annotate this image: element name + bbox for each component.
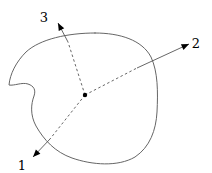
axis-3-group: 3 <box>40 10 85 96</box>
figure-canvas: 1 2 3 <box>0 0 212 173</box>
blob-outline <box>9 33 157 164</box>
axis-1-dashed-segment <box>50 95 85 139</box>
axis-3-dashed-segment <box>68 42 85 95</box>
axis-3-label: 3 <box>40 10 48 25</box>
axis-1-group: 1 <box>18 95 85 173</box>
axis-2-label: 2 <box>192 36 200 51</box>
axis-2-solid-segment <box>137 44 189 68</box>
axis-2-dashed-segment <box>85 68 137 95</box>
diagram-svg: 1 2 3 <box>0 0 212 173</box>
axis-1-label: 1 <box>18 158 26 173</box>
axis-2-group: 2 <box>85 36 200 96</box>
body-center-point <box>83 93 87 97</box>
